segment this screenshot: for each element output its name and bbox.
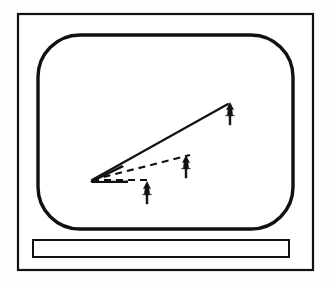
crt-screen-bezel bbox=[38, 35, 293, 229]
monitor-diagram-svg bbox=[0, 0, 331, 283]
monitor-control-bar bbox=[33, 240, 289, 257]
figure-root bbox=[0, 0, 331, 283]
